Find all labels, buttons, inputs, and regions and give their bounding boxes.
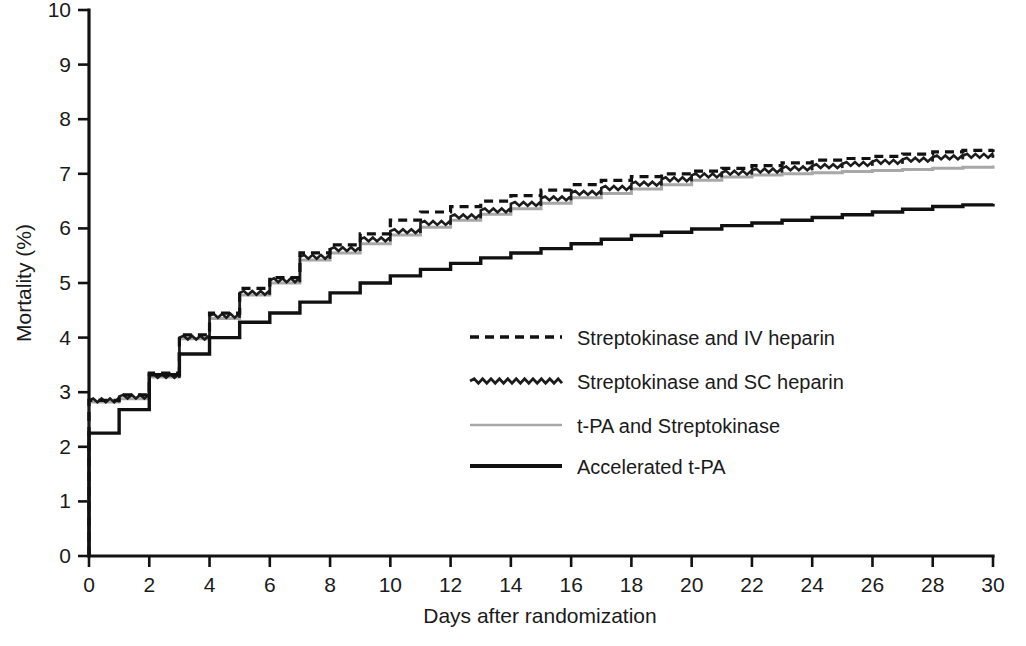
- x-tick-label: 0: [83, 573, 95, 596]
- x-tick-label: 28: [921, 573, 944, 596]
- legend-label: t-PA and Streptokinase: [577, 415, 780, 437]
- y-tick-label: 1: [59, 489, 71, 512]
- y-tick-label: 9: [59, 53, 71, 76]
- y-tick-label: 5: [59, 271, 71, 294]
- x-tick-label: 20: [680, 573, 703, 596]
- x-tick-label: 30: [981, 573, 1004, 596]
- x-tick-label: 2: [143, 573, 155, 596]
- y-tick-label: 10: [48, 0, 71, 21]
- x-tick-label: 18: [620, 573, 643, 596]
- y-tick-label: 6: [59, 216, 71, 239]
- x-tick-label: 14: [499, 573, 523, 596]
- x-axis-title: Days after randomization: [423, 604, 656, 627]
- chart-background: [0, 0, 1026, 646]
- y-tick-label: 8: [59, 107, 71, 130]
- x-tick-label: 6: [264, 573, 276, 596]
- y-tick-label: 4: [59, 326, 71, 349]
- y-tick-label: 7: [59, 162, 71, 185]
- x-tick-label: 8: [324, 573, 336, 596]
- mortality-kaplan-meier-chart: 012345678910 024681012141618202224262830…: [0, 0, 1026, 646]
- y-tick-label: 0: [59, 544, 71, 567]
- y-axis-title: Mortality (%): [12, 224, 35, 342]
- y-tick-label: 3: [59, 380, 71, 403]
- x-tick-label: 22: [740, 573, 763, 596]
- x-tick-label: 16: [559, 573, 582, 596]
- x-tick-label: 4: [204, 573, 216, 596]
- x-tick-label: 24: [801, 573, 825, 596]
- chart-figure: 012345678910 024681012141618202224262830…: [0, 0, 1026, 646]
- legend-label: Streptokinase and IV heparin: [577, 327, 835, 349]
- y-tick-label: 2: [59, 435, 71, 458]
- x-tick-label: 26: [861, 573, 884, 596]
- legend-label: Streptokinase and SC heparin: [577, 371, 844, 393]
- x-tick-label: 10: [379, 573, 402, 596]
- legend-label: Accelerated t-PA: [577, 456, 726, 478]
- x-tick-label: 12: [439, 573, 462, 596]
